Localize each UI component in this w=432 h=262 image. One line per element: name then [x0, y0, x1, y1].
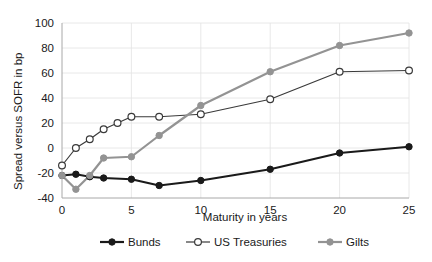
- y-axis-tick-labels: -40-20020406080100: [35, 17, 54, 204]
- chart-series-markers: [59, 30, 413, 193]
- data-point-gilts: [198, 102, 204, 108]
- data-point-us-treasuries: [406, 67, 413, 74]
- data-point-us-treasuries: [128, 113, 135, 120]
- data-point-us-treasuries: [100, 126, 107, 133]
- data-point-gilts: [59, 172, 65, 178]
- y-tick-label: 0: [48, 142, 54, 154]
- data-point-us-treasuries: [197, 111, 204, 118]
- data-point-us-treasuries: [156, 113, 163, 120]
- series-line-gilts: [62, 33, 409, 189]
- y-tick-label: 60: [41, 67, 54, 79]
- y-axis-title: Spread versus SOFR in bp: [12, 53, 24, 190]
- chart-gridlines: [62, 23, 409, 198]
- data-point-gilts: [406, 30, 412, 36]
- chart-legend: BundsUS TreasuriesGilts: [100, 236, 369, 248]
- data-point-bunds: [100, 175, 106, 181]
- data-point-gilts: [100, 155, 106, 161]
- chart-series-lines: [62, 33, 409, 189]
- data-point-bunds: [267, 166, 273, 172]
- legend-marker-us-treasuries: [195, 239, 202, 246]
- series-line-bunds: [62, 147, 409, 186]
- data-point-bunds: [128, 176, 134, 182]
- data-point-us-treasuries: [72, 145, 79, 152]
- y-tick-label: 20: [41, 117, 54, 129]
- x-tick-label: 20: [333, 204, 346, 216]
- y-tick-label: 80: [41, 42, 54, 54]
- data-point-us-treasuries: [336, 68, 343, 75]
- y-tick-label: -20: [37, 167, 54, 179]
- legend-marker-gilts: [327, 239, 333, 245]
- data-point-bunds: [336, 150, 342, 156]
- x-tick-label: 5: [128, 204, 134, 216]
- legend-label-us-treasuries: US Treasuries: [214, 236, 287, 248]
- data-point-gilts: [267, 69, 273, 75]
- x-axis-title: Maturity in years: [203, 211, 288, 223]
- data-point-us-treasuries: [267, 96, 274, 103]
- data-point-us-treasuries: [86, 136, 93, 143]
- data-point-bunds: [156, 182, 162, 188]
- y-tick-label: 100: [35, 17, 54, 29]
- data-point-us-treasuries: [114, 120, 121, 127]
- data-point-us-treasuries: [59, 162, 66, 169]
- y-tick-label: -40: [37, 192, 54, 204]
- legend-label-bunds: Bunds: [128, 236, 161, 248]
- x-tick-label: 0: [59, 204, 65, 216]
- data-point-bunds: [198, 177, 204, 183]
- legend-marker-bunds: [109, 239, 115, 245]
- y-tick-label: 40: [41, 92, 54, 104]
- data-point-bunds: [406, 144, 412, 150]
- legend-label-gilts: Gilts: [346, 236, 369, 248]
- data-point-gilts: [87, 172, 93, 178]
- chart-axes: [62, 23, 409, 198]
- data-point-gilts: [73, 186, 79, 192]
- data-point-gilts: [128, 154, 134, 160]
- data-point-bunds: [73, 171, 79, 177]
- line-chart: -40-20020406080100 0510152025 Spread ver…: [0, 0, 432, 262]
- chart-page: -40-20020406080100 0510152025 Spread ver…: [0, 0, 432, 262]
- data-point-gilts: [336, 42, 342, 48]
- x-tick-label: 25: [403, 204, 416, 216]
- data-point-gilts: [156, 132, 162, 138]
